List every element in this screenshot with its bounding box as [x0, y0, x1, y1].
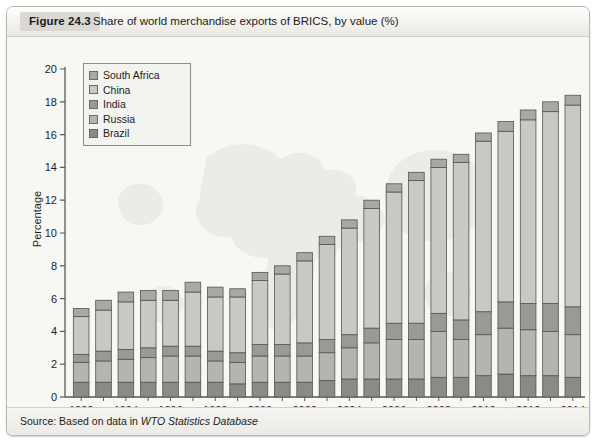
- legend-item-russia: Russia: [89, 112, 184, 127]
- source-reference: WTO Statistics Database: [141, 415, 258, 427]
- legend-item-south-africa: South Africa: [89, 68, 184, 83]
- y-axis-tick-labels: 02468101214161820: [45, 63, 57, 403]
- figure-card: Figure 24.3 Share of world merchandise e…: [6, 6, 590, 436]
- source-prefix: Source: Based on data in: [20, 415, 141, 427]
- legend-label-brazil: Brazil: [103, 128, 129, 139]
- svg-text:16: 16: [45, 129, 57, 141]
- legend-swatch-south-africa: [89, 71, 98, 80]
- svg-text:2: 2: [51, 358, 57, 370]
- svg-text:20: 20: [45, 63, 57, 75]
- legend-label-india: India: [103, 99, 126, 110]
- svg-text:0: 0: [51, 391, 57, 403]
- legend-swatch-brazil: [89, 129, 98, 138]
- chart-legend: South Africa China India Russia Brazil: [83, 63, 191, 146]
- svg-text:10: 10: [45, 227, 57, 239]
- svg-text:6: 6: [51, 293, 57, 305]
- figure-source-bar: Source: Based on data in WTO Statistics …: [7, 407, 590, 435]
- legend-swatch-india: [89, 100, 98, 109]
- svg-text:8: 8: [51, 260, 57, 272]
- figure-title: Share of world merchandise exports of BR…: [93, 12, 399, 31]
- figure-header: Figure 24.3 Share of world merchandise e…: [7, 7, 590, 37]
- svg-text:12: 12: [45, 194, 57, 206]
- legend-swatch-china: [89, 85, 98, 94]
- legend-label-china: China: [103, 85, 130, 96]
- figure-source: Source: Based on data in WTO Statistics …: [20, 415, 258, 427]
- svg-text:18: 18: [45, 96, 57, 108]
- legend-item-brazil: Brazil: [89, 126, 184, 141]
- svg-text:4: 4: [51, 325, 57, 337]
- svg-text:14: 14: [45, 161, 57, 173]
- legend-swatch-russia: [89, 115, 98, 124]
- legend-label-south-africa: South Africa: [103, 70, 160, 81]
- figure-number: Figure 24.3: [20, 12, 100, 31]
- legend-item-india: India: [89, 97, 184, 112]
- legend-label-russia: Russia: [103, 114, 135, 125]
- chart-plot-area: Percentage 19921994199619982000200220042…: [7, 37, 590, 409]
- legend-item-china: China: [89, 83, 184, 98]
